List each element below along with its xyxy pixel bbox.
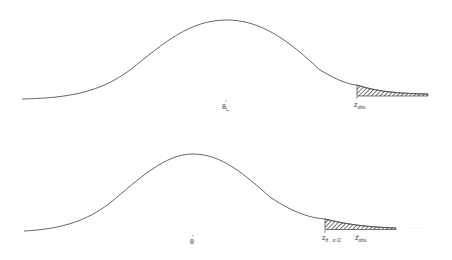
bottom-center-label: θ bbox=[190, 238, 194, 245]
top-zobs-label: zobs bbox=[354, 101, 366, 110]
bottom-distribution bbox=[24, 154, 425, 237]
z-subscript: θ , α /2 bbox=[326, 237, 341, 243]
top-center-label: θL bbox=[222, 103, 229, 112]
bottom-curve bbox=[24, 154, 396, 231]
normal-distribution-diagram bbox=[0, 0, 452, 260]
theta-subscript: L bbox=[226, 106, 229, 112]
z-subscript: obs bbox=[358, 104, 366, 110]
z-subscript: obs bbox=[359, 237, 367, 243]
theta-symbol: θ bbox=[190, 238, 194, 245]
top-shaded-tail bbox=[357, 85, 428, 96]
bottom-zcrit-label: zθ , α /2 bbox=[322, 234, 341, 243]
bottom-zobs-label: zobs bbox=[355, 234, 367, 243]
top-distribution bbox=[22, 20, 428, 102]
top-curve bbox=[22, 20, 428, 99]
